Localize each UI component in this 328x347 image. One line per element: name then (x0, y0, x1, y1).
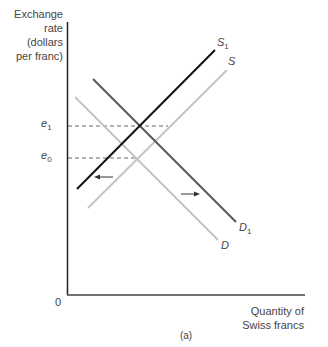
left-shift-arrow-icon (94, 175, 113, 180)
d1-curve-label: D1 (239, 221, 251, 236)
s-curve-label: S (228, 55, 235, 67)
x-axis-label: Quantity of Swiss francs (242, 304, 304, 332)
right-shift-arrow-icon (181, 192, 200, 197)
figure-caption: (a) (0, 330, 328, 341)
d-curve-label: D (221, 239, 229, 251)
origin-label: 0 (55, 296, 61, 308)
e1-tick-label: e1 (41, 117, 52, 132)
supply-demand-chart (0, 0, 328, 347)
x-label-line-1: Quantity of (242, 304, 304, 318)
e0-tick-label: e0 (41, 149, 52, 164)
supply-curve-s (88, 70, 227, 208)
s1-curve-label: S1 (217, 36, 229, 51)
